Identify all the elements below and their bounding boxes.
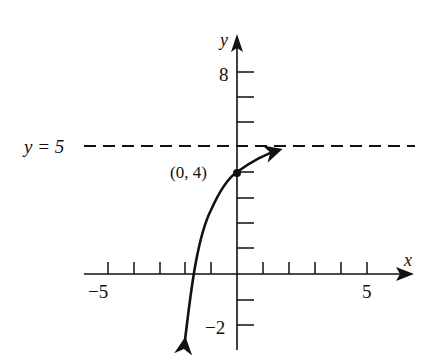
y-ticks bbox=[237, 72, 254, 325]
asymptote-label: y = 5 bbox=[22, 136, 64, 157]
y-tick-label-8: 8 bbox=[219, 64, 229, 85]
x-axis-label: x bbox=[403, 250, 412, 270]
x-tick-label-5: 5 bbox=[362, 281, 372, 302]
point-marker bbox=[233, 169, 241, 177]
point-label: (0, 4) bbox=[170, 163, 207, 182]
y-axis-label: y bbox=[218, 30, 228, 50]
graph: y x 8 −2 −5 5 y = 5 (0, 4) bbox=[0, 0, 436, 363]
y-tick-label-neg2: −2 bbox=[205, 317, 225, 338]
x-tick-label-neg5: −5 bbox=[88, 281, 108, 302]
